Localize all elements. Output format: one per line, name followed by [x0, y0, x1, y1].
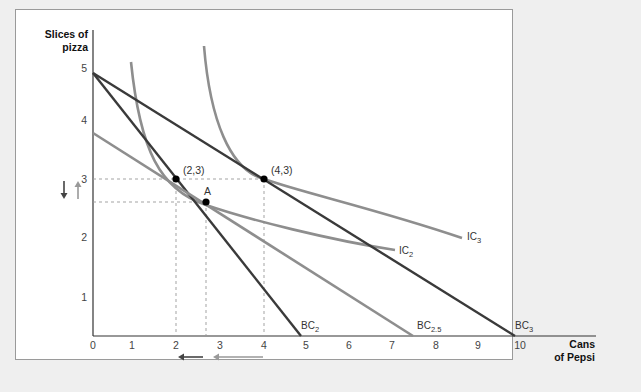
ic2-curve [131, 62, 395, 250]
x-tick-3: 3 [217, 339, 223, 351]
ic3-curve [204, 46, 462, 238]
x-tick-1: 1 [129, 339, 135, 351]
bc2-line [93, 73, 301, 336]
label-bc3: BC3 [515, 320, 533, 334]
x-tick-0: 0 [90, 339, 96, 351]
label-bc2: BC2 [301, 320, 319, 334]
point-2-3 [172, 175, 179, 182]
y-tick-2: 2 [81, 231, 87, 243]
label-ic3: IC3 [467, 231, 481, 245]
label-4-3: (4,3) [271, 164, 293, 176]
point-A [202, 198, 209, 205]
x-tick-5: 5 [303, 339, 309, 351]
left-arrow-icon-light [213, 354, 263, 361]
label-A: A [204, 185, 211, 197]
x-tick-10: 10 [514, 339, 526, 351]
x-tick-4: 4 [261, 339, 267, 351]
y-axis-title-line1: Slices of [45, 28, 89, 40]
y-tick-5: 5 [81, 62, 87, 74]
point-4-3 [260, 175, 267, 182]
x-tick-6: 6 [346, 339, 352, 351]
left-arrow-icon-dark [178, 354, 203, 361]
y-tick-4: 4 [81, 114, 87, 126]
x-axis-title-line2: of Pepsi [554, 351, 595, 363]
x-axis-title-line1: Cans [569, 338, 595, 350]
y-tick-1: 1 [81, 291, 87, 303]
label-bc25: BC2.5 [417, 320, 441, 334]
chart-svg: Slices of pizza Cans of Pepsi 5 4 3 2 1 … [0, 0, 641, 392]
x-tick-2: 2 [173, 339, 179, 351]
label-ic2: IC2 [399, 245, 413, 259]
y-axis-title-line2: pizza [62, 41, 88, 53]
bc3-line [93, 73, 515, 336]
x-tick-7: 7 [389, 339, 395, 351]
bc25-line [93, 133, 413, 336]
x-tick-9: 9 [475, 339, 481, 351]
label-2-3: (2,3) [183, 164, 205, 176]
x-tick-8: 8 [433, 339, 439, 351]
down-arrow-icon [61, 181, 68, 199]
y-tick-3: 3 [81, 173, 87, 185]
